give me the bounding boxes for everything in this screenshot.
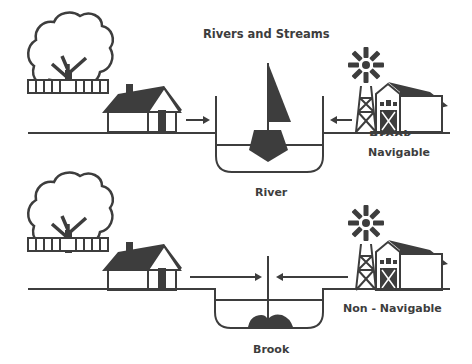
rocks-icon bbox=[248, 314, 293, 327]
fence-icon bbox=[28, 238, 108, 251]
house-icon bbox=[102, 84, 182, 132]
brook-label: Brook bbox=[253, 343, 289, 356]
river-label: River bbox=[255, 186, 287, 199]
bottom-classification-label: Non - Navigable bbox=[343, 302, 442, 315]
house-icon bbox=[102, 242, 182, 290]
arrow-left-icon bbox=[276, 273, 348, 281]
arrow-right-icon bbox=[186, 116, 210, 124]
arrow-right-icon bbox=[190, 273, 262, 281]
sailboat-icon bbox=[249, 63, 291, 162]
arrow-left-icon bbox=[330, 116, 352, 124]
top-classification-label: Navigable bbox=[368, 146, 430, 159]
diagram-title: Rivers and Streams bbox=[203, 27, 330, 41]
barn-icon bbox=[376, 82, 448, 132]
fence-icon bbox=[28, 80, 108, 93]
barn-icon bbox=[376, 240, 448, 290]
overlap-label: Brook bbox=[369, 129, 412, 136]
